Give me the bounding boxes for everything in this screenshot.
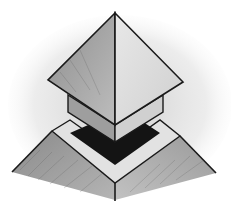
sketch-drawing [0,0,231,215]
roof-vent-illustration [0,0,231,215]
